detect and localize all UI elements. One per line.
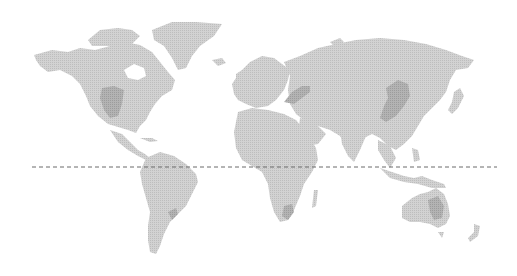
japan	[448, 88, 464, 114]
greenland	[152, 22, 222, 70]
madagascar	[312, 190, 318, 208]
arctic-islands	[88, 28, 140, 46]
north-america	[34, 42, 175, 133]
indonesia	[380, 168, 446, 188]
new-zealand	[468, 224, 480, 242]
iceland	[212, 58, 226, 66]
philippines	[412, 148, 420, 162]
world-map-svg	[0, 0, 517, 276]
tasmania	[438, 232, 444, 238]
central-america	[110, 130, 150, 160]
india	[340, 130, 366, 162]
caribbean	[140, 138, 158, 142]
world-map	[0, 0, 517, 276]
